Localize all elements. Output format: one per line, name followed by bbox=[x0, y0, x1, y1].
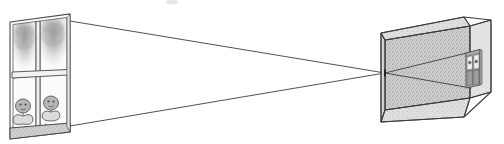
inverted-upper-right-pane bbox=[474, 70, 479, 86]
box-back-face bbox=[385, 26, 470, 110]
pinhole-point bbox=[384, 70, 386, 77]
flower-left-head bbox=[16, 99, 31, 113]
diagram-canvas bbox=[0, 0, 504, 144]
inverted-image-edge bbox=[480, 50, 482, 86]
inverted-upper-left-pane bbox=[467, 71, 472, 87]
pinhole-camera-figure: Pinhole camera (camera obscura) perspect… bbox=[0, 0, 504, 144]
window-reveal bbox=[67, 14, 70, 132]
ray-bottom bbox=[70, 73, 385, 126]
inverted-image bbox=[466, 50, 482, 89]
projection-rays bbox=[70, 21, 385, 126]
flower-right-leaves bbox=[42, 111, 60, 121]
pinhole-box bbox=[381, 17, 491, 122]
ray-top bbox=[70, 21, 385, 73]
window-object bbox=[10, 14, 70, 139]
box-left-face bbox=[381, 33, 385, 122]
flower-right-head bbox=[44, 96, 59, 110]
flower-left-leaves bbox=[13, 115, 33, 125]
scan-artifact bbox=[166, 0, 178, 5]
